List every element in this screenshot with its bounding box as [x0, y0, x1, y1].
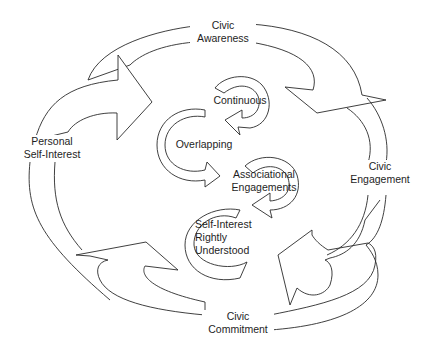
label-continuous: Continuous: [208, 94, 272, 107]
sirU-line3: Understood: [195, 244, 255, 257]
overlapping-text: Overlapping: [176, 138, 233, 150]
sirU-line2: Rightly: [195, 231, 255, 244]
label-associational-engagements: Associational Engagements: [225, 168, 303, 194]
label-overlapping: Overlapping: [170, 138, 238, 151]
arrow-self-interest-to-awareness: [35, 55, 152, 140]
civic-engagement-line2: Engagement: [347, 173, 413, 186]
continuous-text: Continuous: [213, 94, 266, 106]
associational-line1: Associational: [227, 168, 301, 181]
sirU-line1: Self-Interest: [195, 218, 255, 231]
label-personal-self-interest: Personal Self-Interest: [20, 135, 84, 161]
label-civic-engagement: Civic Engagement: [345, 160, 415, 186]
personal-self-interest-line1: Personal: [22, 135, 82, 148]
arrow-engagement-to-commitment: [270, 200, 380, 330]
arrow-left-strand: [29, 162, 110, 300]
civic-awareness-line2: Awareness: [192, 32, 254, 45]
civic-engagement-line1: Civic: [347, 160, 413, 173]
personal-self-interest-line2: Self-Interest: [22, 148, 82, 161]
civic-awareness-line1: Civic: [192, 19, 254, 32]
civic-commitment-line2: Commitment: [204, 323, 272, 336]
label-civic-awareness: Civic Awareness: [190, 19, 256, 45]
civic-commitment-line1: Civic: [204, 310, 272, 323]
label-self-interest-rightly-understood: Self-Interest Rightly Understood: [193, 218, 257, 257]
label-civic-commitment: Civic Commitment: [202, 310, 274, 336]
associational-line2: Engagements: [227, 181, 301, 194]
